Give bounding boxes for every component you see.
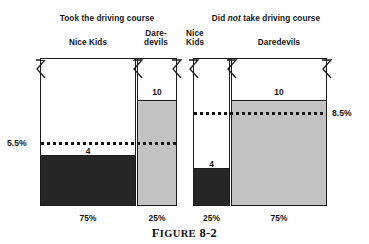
panel-title-no-course-pre: Did [212, 14, 228, 23]
left-nice-kids-value-label: 4 [48, 146, 128, 156]
left-nice-kids-pct-label: 75% [40, 213, 136, 223]
panel-title-no-course: Did not take driving course [186, 14, 346, 23]
axis-break-right-panel-c [320, 58, 334, 80]
right-nice-kids-bar-fill [194, 168, 229, 205]
right-daredevils-bar-top-rule [231, 100, 327, 101]
panel-title-no-course-emphasis: not [228, 14, 241, 23]
axis-break-left-panel-a [34, 58, 48, 80]
group-label-right-daredevils: Daredevils [232, 38, 326, 47]
left-daredevils-bar-fill [138, 101, 176, 205]
left-nice-kids-right-edge [135, 58, 136, 206]
axis-break-mask-left [41, 59, 134, 60]
left-reference-line [41, 142, 176, 145]
right-reference-line [194, 112, 326, 115]
right-panel-top-rule [193, 58, 327, 59]
right-daredevils-baseline [231, 205, 327, 206]
figure-caption-smallcaps: IGURE [160, 228, 196, 239]
figure-caption: FIGURE 8-2 [0, 226, 369, 241]
figure-caption-number: 8-2 [196, 226, 217, 240]
left-daredevils-baseline [137, 205, 177, 206]
figure-8-2: Took the driving course Nice Kids Dare- … [0, 0, 369, 244]
group-label-right-nice-kids: Nice Kids [186, 29, 230, 47]
right-nice-kids-value-label: 4 [193, 159, 230, 169]
right-nice-kids-baseline [193, 205, 230, 206]
right-nice-kids-pct-label: 25% [193, 213, 230, 223]
right-reference-line-label: 8.5% [332, 108, 352, 118]
left-daredevils-bar-top-rule [137, 100, 177, 101]
right-nice-kids-right-edge [229, 58, 230, 206]
axis-break-right-panel-b [225, 58, 239, 80]
right-daredevils-pct-label: 75% [231, 213, 327, 223]
panel-title-took-course: Took the driving course [32, 14, 182, 23]
left-daredevils-value-label: 10 [137, 87, 177, 97]
group-label-left-nice-kids: Nice Kids [50, 38, 126, 47]
axis-break-right-panel-a [187, 58, 201, 80]
axis-break-left-panel-b [131, 58, 145, 80]
right-daredevils-bar-fill [232, 101, 326, 205]
left-daredevils-pct-label: 25% [137, 213, 177, 223]
left-reference-line-label: 5.5% [7, 138, 27, 148]
figure-caption-initial: F [152, 226, 160, 240]
panel-title-no-course-post: take driving course [241, 14, 320, 23]
right-daredevils-right-edge [326, 58, 327, 206]
left-nice-kids-bar-fill [41, 155, 135, 205]
right-daredevils-value-label: 10 [231, 87, 327, 97]
left-nice-kids-baseline [40, 205, 136, 206]
axis-break-left-panel-c [170, 58, 184, 80]
group-label-left-daredevils: Dare- devils [133, 29, 179, 47]
left-daredevils-right-edge [176, 58, 177, 206]
